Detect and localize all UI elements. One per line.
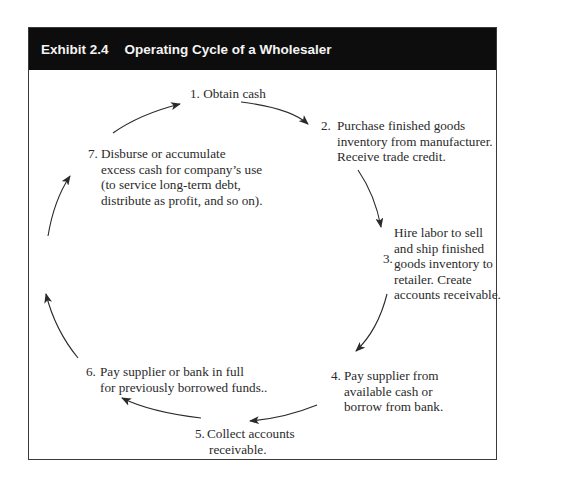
step-text-line: Collect accounts: [207, 426, 295, 442]
arrow-6-up: [46, 294, 78, 358]
step-text-line: distribute as profit, and so on).: [101, 193, 263, 209]
step-text-line: for previously borrowed funds..: [100, 380, 267, 396]
step-text-line: borrow from bank.: [344, 399, 443, 415]
step-text-line: accounts receivable.: [394, 287, 501, 303]
step-text-line: retailer. Create: [394, 272, 501, 288]
arrow-4-to-5: [250, 405, 317, 421]
step-7: 7. Disburse or accumulate excess cash fo…: [88, 146, 263, 208]
step-text-line: available cash or: [344, 384, 443, 400]
step-text-line: goods inventory to: [394, 256, 501, 272]
step-text-line: Purchase finished goods: [337, 118, 493, 134]
step-text-line: Disburse or accumulate: [101, 146, 263, 162]
step-2: 2. Purchase finished goods inventory fro…: [321, 118, 493, 165]
step-number: 1.: [190, 86, 200, 101]
step-number: 7.: [88, 146, 98, 162]
step-text-line: Pay supplier from: [344, 368, 443, 384]
step-number: 2.: [321, 118, 331, 134]
arrow-7-to-1: [113, 104, 180, 133]
step-text-line: (to service long-term debt,: [101, 177, 263, 193]
arrow-2-to-3: [358, 170, 381, 227]
step-1: 1. Obtain cash: [190, 86, 266, 102]
arrow-3-to-4: [356, 294, 387, 351]
step-5: 5. Collect accounts receivable.: [195, 426, 295, 457]
step-6: 6. Pay supplier or bank in full for prev…: [86, 364, 267, 395]
step-3: 3. Hire labor to sell and ship finished …: [394, 225, 501, 303]
step-text-line: receivable.: [207, 442, 295, 458]
arrow-1-to-2: [241, 102, 308, 124]
step-text: Obtain cash: [203, 86, 266, 101]
step-text-line: Receive trade credit.: [337, 149, 493, 165]
step-text-line: inventory from manufacturer.: [337, 134, 493, 150]
step-text-line: excess cash for company’s use: [101, 162, 263, 178]
step-4: 4. Pay supplier from available cash or b…: [331, 368, 443, 415]
step-number: 4.: [331, 368, 341, 384]
step-text-line: Pay supplier or bank in full: [100, 364, 267, 380]
step-text-line: Hire labor to sell: [394, 225, 501, 241]
step-text-line: and ship finished: [394, 241, 501, 257]
step-number: 5.: [195, 426, 205, 442]
arrow-5-to-6: [122, 398, 201, 418]
step-number: 3.: [383, 251, 393, 267]
step-number: 6.: [86, 364, 96, 380]
arrow-left-up: [48, 176, 70, 236]
